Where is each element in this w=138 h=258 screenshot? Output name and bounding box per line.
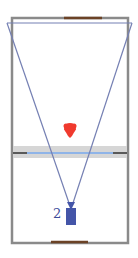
camera-label: 2 <box>53 207 61 220</box>
court-diagram <box>0 0 138 258</box>
camera-icon <box>66 208 76 225</box>
